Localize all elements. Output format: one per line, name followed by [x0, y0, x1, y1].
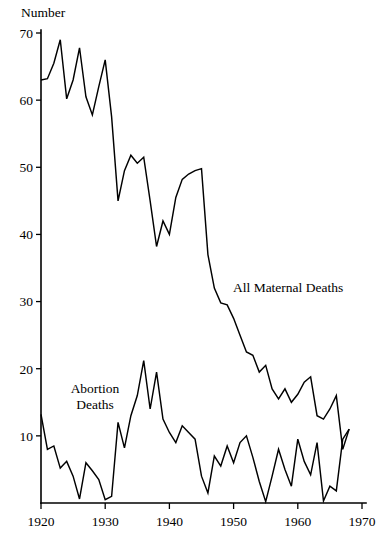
x-axis-tick-label: 1930: [92, 514, 119, 529]
series-label-abortion-line-2: Deaths: [57, 397, 133, 413]
x-axis-ticks: [41, 503, 362, 509]
chart-canvas: 10203040506070 192019301940195019601970: [0, 0, 380, 540]
y-axis-tick-label: 30: [20, 294, 34, 309]
y-axis-title: Number: [21, 5, 65, 21]
series-label-abortion-deaths: Abortion Deaths: [57, 381, 133, 413]
y-axis-tick-label: 20: [20, 362, 34, 377]
x-axis-tick-label: 1920: [28, 514, 55, 529]
x-axis-tick-label: 1940: [156, 514, 183, 529]
x-axis-tick-label: 1970: [349, 514, 376, 529]
y-axis-tick-label: 10: [20, 429, 34, 444]
x-axis-tick-labels: 192019301940195019601970: [28, 514, 376, 529]
x-axis-tick-label: 1960: [284, 514, 311, 529]
y-axis-tick-label: 60: [20, 93, 34, 108]
y-axis-tick-label: 40: [20, 227, 34, 242]
y-axis-tick-label: 70: [20, 26, 34, 41]
chart-figure: 10203040506070 192019301940195019601970 …: [0, 0, 380, 540]
series-label-abortion-line-1: Abortion: [57, 381, 133, 397]
x-axis-tick-label: 1950: [220, 514, 247, 529]
y-axis-tick-label: 50: [20, 160, 34, 175]
series-label-all-maternal-deaths: All Maternal Deaths: [233, 280, 343, 296]
y-axis-tick-labels: 10203040506070: [20, 26, 34, 444]
